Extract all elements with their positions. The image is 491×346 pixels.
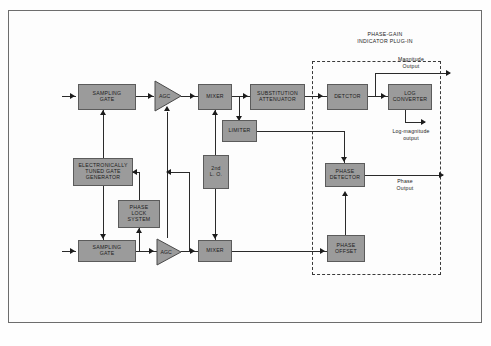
block-limiter: LIMITER xyxy=(222,120,257,142)
line-magnitude-tap-up xyxy=(375,73,376,96)
phase-gain-plugin-title: PHASE-GAIN INDICATOR PLUG-IN xyxy=(330,31,440,45)
line-magnitude-out xyxy=(375,73,450,74)
second-lo-label-2: L. O. xyxy=(209,172,224,178)
block-substitution-attenuator: SUBSTITUTION ATTENUATOR xyxy=(250,84,305,110)
mixer-bottom-label: MIXER xyxy=(205,248,225,254)
mixer-top-label: MIXER xyxy=(205,94,225,100)
arrow-etgg-to-sg-bottom xyxy=(100,234,106,239)
arrow-etgg-to-sg-top xyxy=(100,110,106,115)
line-etgg-to-sg-bottom xyxy=(103,186,104,240)
label-log-magnitude-output: Log-magnitude output xyxy=(380,128,442,141)
arrow-mixer-to-attenuator xyxy=(243,93,248,99)
arrow-lo-to-mixer-top xyxy=(212,110,218,115)
block-phase-offset: PHASE OFFSET xyxy=(327,235,365,262)
limiter-label: LIMITER xyxy=(227,128,251,134)
block-mixer-top: MIXER xyxy=(198,84,232,110)
phase-detector-label-2: DETECTOR xyxy=(329,175,361,181)
line-etgg-to-sg-top xyxy=(103,110,104,158)
plugin-title-line-1: PHASE-GAIN xyxy=(330,31,440,38)
agc-bottom-label: AGC xyxy=(158,249,174,255)
phase-output-line-2: Output xyxy=(383,185,427,192)
plugin-title-line-2: INDICATOR PLUG-IN xyxy=(330,38,440,45)
arrow-agc-bus-to-top-agc xyxy=(164,106,170,111)
line-attenuator-to-detector xyxy=(305,96,327,97)
arrow-sg-to-agc-top xyxy=(148,93,153,99)
log-converter-label-2: CONVERTER xyxy=(392,97,429,103)
log-magnitude-line-2: output xyxy=(380,135,442,142)
arrow-phase-offset-to-detector xyxy=(342,191,348,196)
input-arrow-bottom xyxy=(70,248,75,254)
block-log-converter: LOG CONVERTER xyxy=(388,84,432,110)
block-mixer-bottom: MIXER xyxy=(198,240,232,262)
arrow-attenuator-to-detector xyxy=(318,93,323,99)
line-logmag-down xyxy=(405,110,406,122)
line-phase-offset-to-detector xyxy=(345,193,346,235)
block-sampling-gate-bottom: SAMPLING GATE xyxy=(78,240,136,262)
line-mixer-bottom-to-phase-offset xyxy=(232,251,327,252)
magnitude-output-line-2: Output xyxy=(381,63,441,70)
line-agc-control-bus xyxy=(167,112,168,238)
arrow-lo-to-mixer-bottom xyxy=(212,234,218,239)
sampling-gate-top-label-2: GATE xyxy=(92,97,123,103)
block-electronically-tuned-gate-generator: ELECTRONICALLY TUNED GATE GENERATOR xyxy=(73,158,133,186)
block-second-lo: 2nd L. O. xyxy=(203,155,229,189)
block-detector: DETCTOR xyxy=(327,84,368,110)
arrow-magnitude-output xyxy=(446,70,451,76)
arrow-agc-to-mixer-bottom xyxy=(190,248,195,254)
arrow-phase-output xyxy=(439,172,444,178)
agc-top-label: AGC xyxy=(156,93,173,99)
block-sampling-gate-top: SAMPLING GATE xyxy=(78,84,136,110)
line-lo-to-mixer-bottom xyxy=(215,189,216,240)
arrow-agc-to-mixer-top xyxy=(190,93,195,99)
line-phase-output xyxy=(365,175,443,176)
substitution-attenuator-label-2: ATTENUATOR xyxy=(256,97,299,103)
arrow-mixer-bottom-to-phase-offset xyxy=(320,248,325,254)
arrow-pls-to-etgg xyxy=(132,169,137,175)
arrow-sg-to-agc-bottom xyxy=(149,248,154,254)
sampling-gate-bottom-label-2: GATE xyxy=(92,251,123,257)
arrow-bottom-bus-to-pls xyxy=(136,228,142,233)
figure-canvas: PHASE-GAIN INDICATOR PLUG-IN SAMPLING GA… xyxy=(0,0,491,346)
block-phase-detector: PHASE DETECTOR xyxy=(325,163,365,187)
etgg-label-3: GENERATOR xyxy=(77,175,128,181)
label-magnitude-output: Magnitude Output xyxy=(381,56,441,69)
line-pls-up xyxy=(139,172,140,200)
block-agc-bottom: AGC xyxy=(156,238,182,266)
line-agc-bus-branch-down xyxy=(189,172,190,251)
arrow-limiter-to-phase-detector xyxy=(341,157,347,162)
arrow-detector-to-logconv xyxy=(381,93,386,99)
block-phase-lock-system: PHASE LOCK SYSTEM xyxy=(118,200,160,228)
arrow-log-magnitude-output xyxy=(421,119,426,125)
input-arrow-top xyxy=(70,93,75,99)
line-lo-to-mixer-top xyxy=(215,110,216,155)
label-phase-output: Phase Output xyxy=(383,178,427,191)
detector-label: DETCTOR xyxy=(333,94,362,100)
arrow-agc-bus-branch xyxy=(166,169,171,175)
phase-offset-label-2: OFFSET xyxy=(334,249,358,255)
phase-lock-label-3: SYSTEM xyxy=(127,217,152,223)
line-limiter-right xyxy=(257,131,345,132)
